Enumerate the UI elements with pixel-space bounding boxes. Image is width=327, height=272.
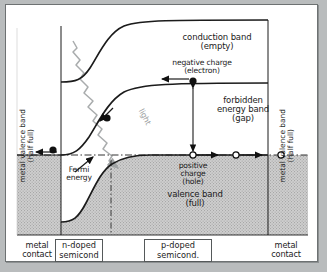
label-positive-charge: positive charge (hole) [162,162,224,187]
bottom-label-metal-contact-right: metal contact [262,241,310,259]
bottom-label-n-doped: n-doped semicond [55,239,103,262]
label-negative-charge: negative charge (electron) [150,59,254,75]
bottom-label-metal-contact-left: metal contact [13,241,61,259]
electron-drift-arrows [36,79,189,152]
label-metal-valence-left: metal valence band (half full) [19,94,35,198]
band-diagram-figure: conduction band (empty) negative charge … [0,0,327,272]
electron-markers [49,77,196,153]
label-conduction-band: conduction band (empty) [162,33,272,51]
bottom-label-p-doped: p-doped semicond. [144,239,212,262]
label-fermi-energy: Fermi energy [56,166,102,182]
label-forbidden-gap: forbidden energy band (gap) [200,96,286,124]
label-valence-band: valence band (full) [140,190,250,208]
label-metal-valence-right: metal valence band (half full) [279,94,295,198]
